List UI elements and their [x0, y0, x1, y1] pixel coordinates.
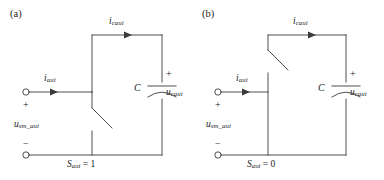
terminal-positive — [23, 89, 29, 95]
figure-root: (a) iaui icaui + − usm_aui C + ucaui Sau… — [0, 0, 384, 180]
terminal-minus-sign-b: − — [215, 139, 221, 149]
input-current-label-b: iaui — [236, 74, 248, 84]
cap-current-subscript: caui — [112, 19, 124, 26]
cap-voltage-subscript: caui — [355, 90, 367, 97]
arrow-cap-current — [124, 32, 132, 39]
input-current-subscript: aui — [47, 76, 56, 83]
terminal-plus-sign-b: + — [215, 100, 221, 110]
circuit-panel-a: (a) iaui icaui + − usm_aui C + ucaui Sau… — [0, 0, 192, 180]
cap-current-label-b: icaui — [293, 17, 308, 27]
switch-state-label-a: Saui = 1 — [67, 160, 95, 170]
switch-state-label-b: Saui = 0 — [247, 160, 275, 170]
terminal-minus-sign-a: − — [23, 139, 29, 149]
panel-a-svg — [0, 0, 192, 180]
switch-state-value: 0 — [271, 159, 276, 169]
source-voltage-label-a: usm_aui — [14, 120, 39, 130]
circuit-panel-b: (b) iaui icaui + − usm_aui C + ucaui Sau… — [192, 0, 384, 180]
input-current-label-a: iaui — [44, 74, 56, 84]
arrow-input-current — [242, 89, 250, 96]
capacitor-label-a: C — [134, 83, 141, 93]
panel-a-schematic — [0, 0, 192, 180]
switch-state-value: 1 — [91, 159, 96, 169]
terminal-negative — [215, 152, 221, 158]
cap-current-subscript: caui — [296, 19, 308, 26]
source-voltage-label-b: usm_aui — [206, 120, 231, 130]
capacitor-label-b: C — [318, 83, 325, 93]
switch-blade — [268, 50, 288, 70]
cap-voltage-label-b: ucaui — [350, 88, 367, 98]
capacitor-plus-sign-b: + — [350, 69, 356, 79]
terminal-plus-sign-a: + — [23, 100, 29, 110]
cap-voltage-subscript: caui — [171, 90, 183, 97]
capacitor-plus-sign-a: + — [166, 69, 172, 79]
cap-voltage-label-a: ucaui — [166, 88, 183, 98]
cap-current-label-a: icaui — [109, 17, 124, 27]
arrow-input-current — [50, 89, 58, 96]
switch-blade — [92, 108, 112, 128]
input-current-subscript: aui — [239, 76, 248, 83]
terminal-negative — [23, 152, 29, 158]
panel-label-b: (b) — [202, 9, 214, 20]
source-voltage-subscript: sm_aui — [211, 122, 231, 129]
arrow-cap-current — [308, 32, 316, 39]
terminal-positive — [215, 89, 221, 95]
source-voltage-subscript: sm_aui — [19, 122, 39, 129]
panel-label-a: (a) — [10, 9, 22, 20]
